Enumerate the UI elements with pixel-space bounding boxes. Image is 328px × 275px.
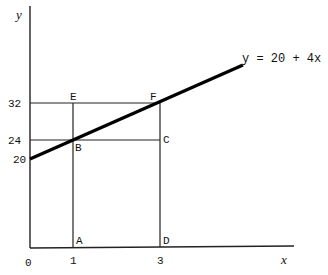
linear-function-diagram: y x 32 24 20 0 1 3 E F B C A D y = 20 + …: [0, 0, 328, 275]
x-axis: [30, 246, 294, 248]
point-label-F: F: [150, 91, 157, 103]
x-axis-label: x: [280, 252, 287, 267]
y-tick-32: 32: [8, 98, 21, 110]
point-label-A: A: [76, 235, 83, 247]
function-line: [30, 65, 243, 159]
diagram: y x 32 24 20 0 1 3 E F B C A D y = 20 + …: [0, 0, 328, 275]
point-label-D: D: [163, 235, 170, 247]
equation-label: y = 20 + 4x: [242, 52, 321, 66]
y-tick-24: 24: [8, 135, 22, 147]
x-tick-0: 0: [25, 257, 32, 269]
x-tick-3: 3: [157, 255, 164, 267]
x-tick-1: 1: [70, 255, 77, 267]
point-label-B: B: [75, 142, 82, 154]
y-axis-label: y: [14, 7, 22, 22]
point-label-C: C: [163, 134, 170, 146]
y-tick-20: 20: [13, 154, 26, 166]
point-label-E: E: [70, 91, 77, 103]
